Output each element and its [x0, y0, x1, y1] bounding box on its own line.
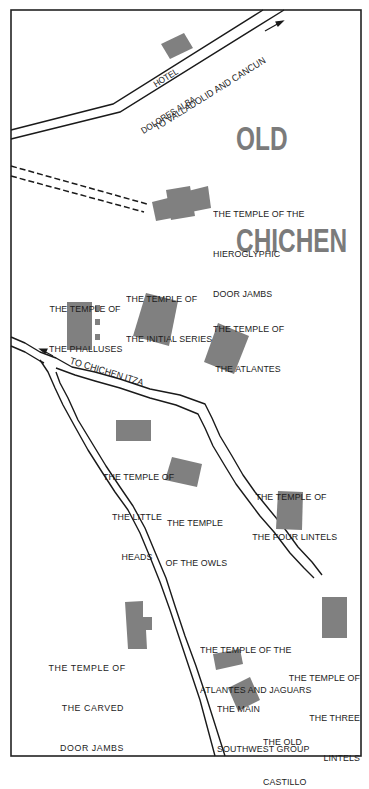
building-little-heads [116, 420, 151, 441]
label-temple-owls: THE TEMPLE OF THE OWLS [166, 490, 225, 582]
label-temple-phalluses: THE TEMPLE OF THE PHALLUSES [49, 276, 121, 368]
building-carved-door-jambs [125, 601, 152, 649]
label-temple-atlantes: THE TEMPLE OF THE ATLANTES [213, 296, 283, 388]
arrow-northeast-icon [265, 21, 283, 31]
label-old-castillo: THE OLD CASTILLO [263, 709, 306, 789]
map-title-line-1: OLD [236, 122, 347, 156]
label-temple-initial-series: THE TEMPLE OF THE INITIAL SERIES [126, 266, 212, 358]
path-dashed [11, 166, 147, 212]
label-temple-four-lintels: THE TEMPLE OF THE FOUR LINTELS [252, 464, 329, 556]
label-temple-little-heads: THE TEMPLE OF THE LITTLE HEADS [103, 444, 171, 576]
label-temple-hieroglyphic-door-jambs: THE TEMPLE OF THE HIEROGLYPHIC DOOR JAMB… [213, 181, 304, 313]
building-three-lintels [322, 597, 347, 638]
label-temple-carved-door-jambs: THE TEMPLE OF THE CARVED DOOR JAMBS [49, 635, 124, 767]
building-hieroglyphic-3 [188, 186, 211, 212]
